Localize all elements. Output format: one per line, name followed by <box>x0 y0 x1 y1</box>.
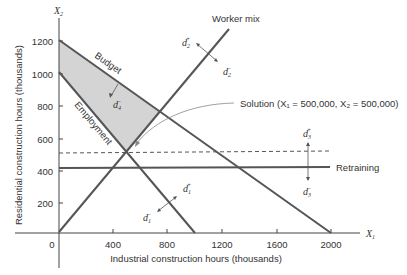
y-axis-title: Residential construction hours (thousand… <box>13 45 24 225</box>
x-tick-400: 400 <box>105 239 121 250</box>
d2-plus-label: d2+ <box>182 36 190 49</box>
d1-arrowhead-minus <box>157 208 161 212</box>
x-tick-1600: 1600 <box>266 239 287 250</box>
x-ticks <box>113 229 331 233</box>
retraining-label: Retraining <box>336 162 379 173</box>
x-tick-800: 800 <box>159 239 175 250</box>
d3-arrowhead-plus <box>306 142 310 146</box>
d2-minus-label: d2− <box>223 65 231 78</box>
d3-minus-label: d3− <box>303 185 311 198</box>
worker-mix-label: Worker mix <box>212 13 260 24</box>
solution-label: Solution (X₁ = 500,000, X₂ = 500,000) <box>240 98 398 109</box>
d3-plus-label: d3+ <box>303 127 311 140</box>
y-tick-1000: 1000 <box>32 69 53 80</box>
x-tick-1200: 1200 <box>211 239 232 250</box>
y-tick-800: 800 <box>37 101 53 112</box>
d1-arrowhead-plus <box>173 196 177 200</box>
goal-programming-chart: 1200 1000 800 600 400 200 0 400 800 1200… <box>0 0 407 275</box>
x-tick-0: 0 <box>49 239 54 250</box>
y-axis-symbol: X2 <box>53 5 63 17</box>
y-tick-200: 200 <box>37 198 53 209</box>
d4-minus-label: d4− <box>113 98 121 111</box>
d1-minus-label: d1− <box>143 211 151 224</box>
y-tick-400: 400 <box>37 166 53 177</box>
y-tick-1200: 1200 <box>32 36 53 47</box>
y-tick-600: 600 <box>37 134 53 145</box>
x-tick-2000: 2000 <box>320 239 341 250</box>
d1-plus-label: d1+ <box>183 182 191 195</box>
x-axis-symbol: X1 <box>365 228 375 240</box>
d3-arrowhead-minus <box>306 177 310 181</box>
dashed-reference-line <box>59 151 331 153</box>
chart-svg: 1200 1000 800 600 400 200 0 400 800 1200… <box>0 0 407 275</box>
x-axis-title: Industrial construction hours (thousands… <box>110 253 282 264</box>
retraining-line <box>59 167 330 168</box>
